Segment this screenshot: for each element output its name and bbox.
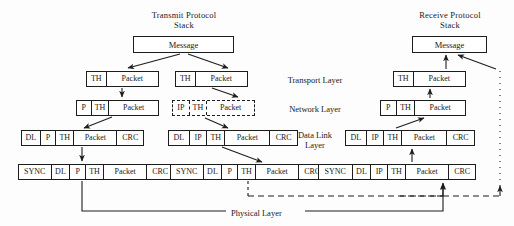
protocol-stack-diagram: Transmit Protocol Stack Receive Protocol… bbox=[0, 0, 514, 226]
connector-lines bbox=[0, 0, 514, 226]
